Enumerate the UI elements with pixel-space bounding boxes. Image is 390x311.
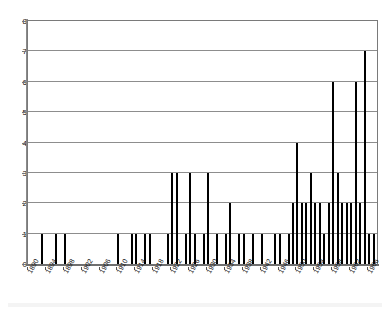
bar [131,234,133,264]
bar [346,203,348,264]
bar [310,173,312,264]
bar [176,173,178,264]
bar [225,234,227,264]
y-axis-tick-labels: 012345678 [0,20,27,265]
plot-frame [27,20,378,265]
bar [238,234,240,264]
bar [117,234,119,264]
y-tick-label-3: 3 [11,170,27,178]
bar [301,203,303,264]
bar [368,234,370,264]
gridline-2 [28,202,377,203]
bar-chart: 012345678 189018941898190219061910191419… [0,0,390,311]
y-tick-label-0: 0 [11,261,27,269]
bar [364,51,366,264]
gridline-7 [28,50,377,51]
bar [171,173,173,264]
bar [64,234,66,264]
bar [274,234,276,264]
bar [355,82,357,264]
bar [41,234,43,264]
x-axis-line [26,264,379,266]
bar [328,203,330,264]
bar [203,234,205,264]
gridline-6 [28,81,377,82]
y-tick-label-2: 2 [11,200,27,208]
bar [189,173,191,264]
bar [341,203,343,264]
bar [135,234,137,264]
bar [292,203,294,264]
bar [261,234,263,264]
y-tick-label-8: 8 [11,18,27,26]
y-tick-label-1: 1 [11,231,27,239]
gridline-4 [28,142,377,143]
bar [319,203,321,264]
gridline-5 [28,111,377,112]
footer-artifact [8,303,382,307]
bar [185,234,187,264]
bar [149,234,151,264]
bar [296,143,298,265]
y-tick-label-5: 5 [11,109,27,117]
bar [359,203,361,264]
plot-area [28,21,377,264]
bar [243,234,245,264]
bar [279,234,281,264]
bar [350,203,352,264]
bar [229,203,231,264]
y-tick-label-6: 6 [11,79,27,87]
bar [314,203,316,264]
bar [207,173,209,264]
y-tick-label-4: 4 [11,140,27,148]
gridline-3 [28,172,377,173]
bar [305,203,307,264]
y-tick-label-7: 7 [11,48,27,56]
bar [332,82,334,264]
bar [337,173,339,264]
bar [167,234,169,264]
